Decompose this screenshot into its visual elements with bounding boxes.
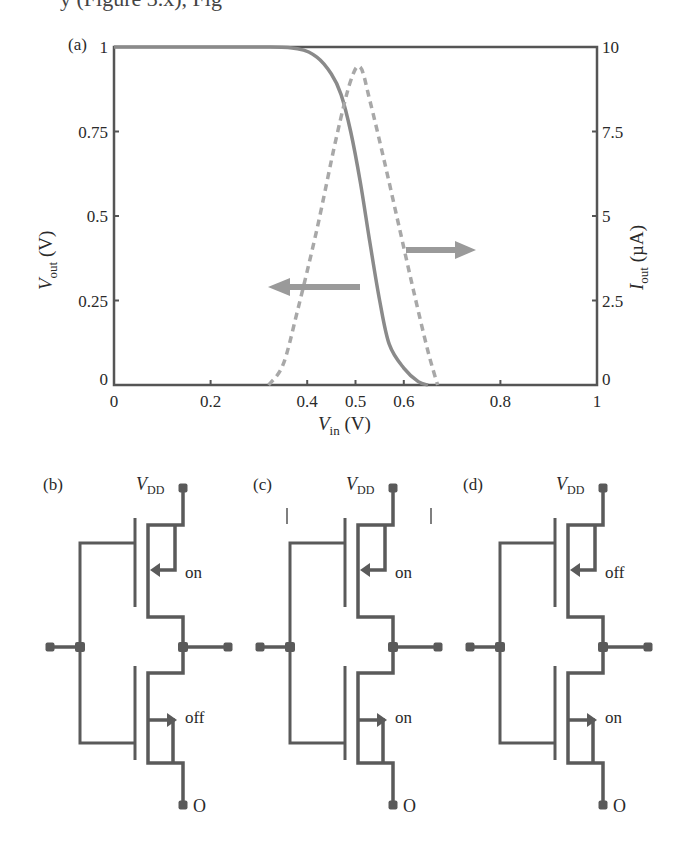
nmos-state-label: on [605,708,623,727]
x-tick-label: 0 [110,392,119,411]
y-left-tick-label: 0 [100,370,109,389]
y-right-axis-label: Iout (µA) [626,225,651,291]
nmos-state-label: on [395,708,413,727]
y-right-tick-label: 5 [602,207,611,226]
pmos-state-label: off [605,563,625,582]
nmos-state-label: off [185,708,205,727]
panel-label: (d) [463,475,483,494]
y-left-tick-label: 0.25 [78,292,108,311]
x-tick-label: 0.6 [393,392,414,411]
svg-text:Vin (V): Vin (V) [318,413,371,438]
y-right-tick-label: 2.5 [602,292,623,311]
panel-d-circuit: (d)VDDOoffon [463,474,653,816]
y-left-tick-label: 1 [100,38,109,57]
iout-curve [269,66,438,385]
right-axis-arrow-icon [406,241,476,259]
panel-b-circuit: (b)VDDOonoff [43,474,233,816]
x-tick-label: 0.5 [345,392,366,411]
y-right-tick-label: 10 [602,38,619,57]
plot-frame [114,47,597,385]
vout-curve [114,47,428,385]
x-tick-label: 1 [593,392,602,411]
figure-canvas: (a) 00.20.40.50.60.81 00.250.50.751 02.5… [0,0,694,853]
left-axis-arrow-icon [268,278,360,296]
panel-a-label: (a) [68,35,87,54]
pmos-state-label: on [395,563,413,582]
pmos-arrow-icon [570,563,580,577]
ground-label: O [193,796,206,816]
y-left-tick-label: 0.5 [87,207,108,226]
x-tick-label: 0.8 [490,392,511,411]
inverter-circuits: (b)VDDOonoff(c)VDDOonon(d)VDDOoffon [43,474,653,816]
pmos-state-label: on [185,563,203,582]
y-left-tick-label: 0.75 [78,123,108,142]
vdd-label: VDD [556,474,585,497]
y-right-tick-label: 0 [602,370,611,389]
svg-text:Vout (V): Vout (V) [35,231,60,290]
y-right-tick-label: 7.5 [602,123,623,142]
panel-c-circuit: (c)VDDOonon [253,474,443,816]
x-tick-label: 0.4 [297,392,319,411]
panel-label: (b) [43,475,63,494]
svg-text:Iout (µA): Iout (µA) [626,225,651,291]
ground-label: O [403,796,416,816]
vdd-label: VDD [346,474,375,497]
vdd-label: VDD [136,474,165,497]
x-axis-label: Vin (V) [318,413,371,438]
x-tick-label: 0.2 [200,392,221,411]
panel-a-chart: (a) 00.20.40.50.60.81 00.250.50.751 02.5… [35,35,651,438]
pmos-arrow-icon [150,563,160,577]
ground-label: O [613,796,626,816]
y-left-axis-label: Vout (V) [35,231,60,290]
pmos-arrow-icon [360,563,370,577]
panel-label: (c) [253,475,272,494]
